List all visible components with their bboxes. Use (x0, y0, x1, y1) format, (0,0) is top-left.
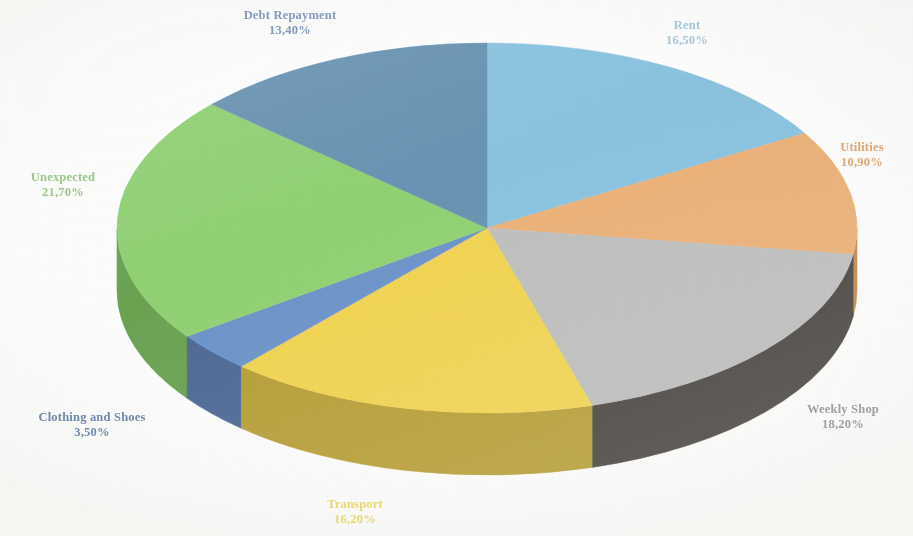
pie-label-rent: Rent 16,50% (627, 18, 747, 48)
pie-label-transport-name: Transport (290, 497, 420, 512)
pie-chart: Debt Repayment 13,40% Rent 16,50% Utilit… (0, 0, 913, 536)
pie-label-weekly-shop: Weekly Shop 18,20% (778, 402, 908, 432)
pie-label-unexpected: Unexpected 21,70% (2, 170, 124, 200)
pie-label-debt-repayment-value: 13,40% (200, 23, 380, 38)
pie-label-weekly-shop-value: 18,20% (778, 417, 908, 432)
pie-top-faces (117, 43, 857, 413)
pie-label-utilities-value: 10,90% (812, 155, 912, 170)
pie-label-weekly-shop-name: Weekly Shop (778, 402, 908, 417)
pie-label-rent-name: Rent (627, 18, 747, 33)
pie-label-clothing-and-shoes-value: 3,50% (4, 425, 180, 440)
pie-label-clothing-and-shoes-name: Clothing and Shoes (4, 410, 180, 425)
pie-label-transport-value: 16,20% (290, 512, 420, 527)
pie-chart-canvas (0, 0, 913, 536)
pie-label-transport: Transport 16,20% (290, 497, 420, 527)
pie-label-debt-repayment-name: Debt Repayment (200, 8, 380, 23)
pie-label-unexpected-name: Unexpected (2, 170, 124, 185)
pie-label-debt-repayment: Debt Repayment 13,40% (200, 8, 380, 38)
pie-label-rent-value: 16,50% (627, 33, 747, 48)
pie-label-utilities-name: Utilities (812, 140, 912, 155)
pie-label-utilities: Utilities 10,90% (812, 140, 912, 170)
pie-label-clothing-and-shoes: Clothing and Shoes 3,50% (4, 410, 180, 440)
pie-label-unexpected-value: 21,70% (2, 185, 124, 200)
